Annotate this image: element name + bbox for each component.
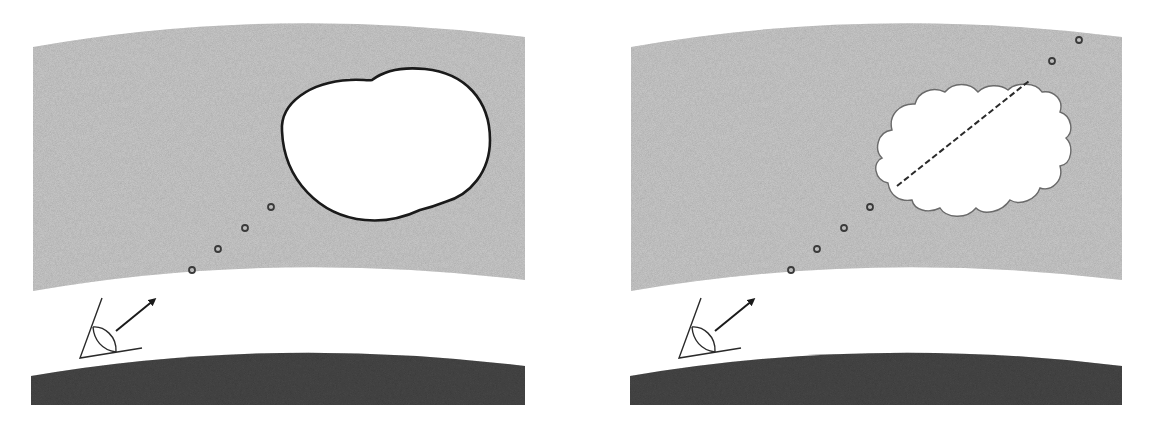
panel-right (630, 23, 1122, 405)
eye-angle-icon (80, 298, 142, 358)
diagram-canvas (0, 0, 1150, 429)
panel-left (31, 23, 525, 405)
ground (630, 353, 1122, 405)
arrow-up-right-icon (715, 300, 753, 331)
eye-angle-icon (679, 298, 741, 358)
ground (31, 353, 525, 405)
figure (0, 0, 1150, 429)
arrow-up-right-icon (116, 300, 154, 331)
cloud-smooth (282, 68, 490, 220)
